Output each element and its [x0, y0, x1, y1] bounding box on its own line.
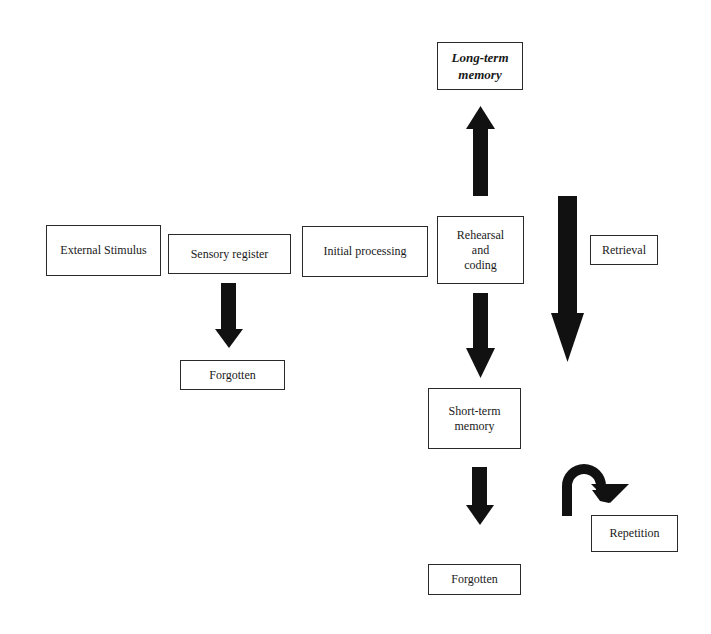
- u-turn-repetition-icon: [562, 464, 629, 516]
- node-short-term-memory: Short-term memory: [428, 388, 521, 449]
- repetition-label: Repetition: [610, 526, 660, 541]
- node-long-term-memory: Long-term memory: [437, 42, 523, 90]
- node-forgotten-sensory: Forgotten: [180, 360, 285, 390]
- long-term-memory-line-2: memory: [451, 66, 508, 83]
- arrow-sensory-to-forgotten-icon: [215, 283, 243, 348]
- node-initial-processing: Initial processing: [302, 226, 428, 277]
- rehearsal-line-1: Rehearsal: [457, 228, 504, 243]
- forgotten-sensory-label: Forgotten: [209, 368, 255, 383]
- arrow-retrieval-down-icon: [551, 196, 584, 362]
- node-repetition: Repetition: [591, 515, 678, 552]
- arrow-short-term-to-forgotten-icon: [466, 467, 494, 525]
- node-rehearsal-coding: Rehearsal and coding: [437, 216, 524, 284]
- short-term-memory-line-2: memory: [449, 419, 501, 434]
- arrow-down-to-short-term-icon: [466, 293, 495, 378]
- node-sensory-register: Sensory register: [168, 234, 291, 274]
- short-term-memory-line-1: Short-term: [449, 404, 501, 419]
- node-external-stimulus: External Stimulus: [46, 225, 161, 276]
- rehearsal-line-2: and: [457, 243, 504, 258]
- initial-processing-label: Initial processing: [324, 244, 407, 259]
- node-retrieval: Retrieval: [590, 235, 658, 265]
- arrow-up-to-long-term-icon: [466, 106, 495, 196]
- retrieval-label: Retrieval: [602, 243, 646, 258]
- long-term-memory-line-1: Long-term: [451, 49, 508, 66]
- external-stimulus-label: External Stimulus: [60, 243, 146, 258]
- node-forgotten-short-term: Forgotten: [428, 564, 521, 595]
- forgotten-short-term-label: Forgotten: [451, 572, 497, 587]
- rehearsal-line-3: coding: [457, 258, 504, 273]
- sensory-register-label: Sensory register: [191, 247, 269, 262]
